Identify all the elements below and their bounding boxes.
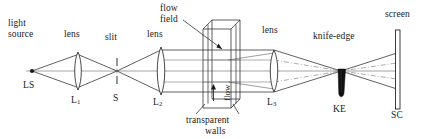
lens-2-symbol: L2 <box>153 97 162 110</box>
ray-slit-l2-lower <box>117 71 161 92</box>
knife-edge-body <box>338 69 346 97</box>
ray-ke-screen-mid-upper <box>341 63 397 71</box>
light-source-point <box>30 69 34 73</box>
schlieren-system-diagram: light source lens slit lens flow field l… <box>0 0 430 139</box>
lens-3-symbol: L3 <box>267 97 276 110</box>
test-section-edge-br <box>231 99 240 108</box>
ray-ke-screen-lower <box>341 71 397 89</box>
ray-ke-screen-upper <box>341 53 397 71</box>
ray-ls-l1-lower <box>32 71 78 88</box>
test-section-edge-tl <box>203 20 212 29</box>
light-source-label: light source <box>8 18 33 40</box>
knife-edge-symbol: KE <box>333 104 346 115</box>
lens-3-label: lens <box>262 25 278 36</box>
flow-arrow-label: flow <box>222 85 232 102</box>
transparent-walls-leaders <box>196 104 239 114</box>
lens-1-symbol: L1 <box>71 95 80 108</box>
flow-field-label-line1: flow <box>160 3 178 13</box>
ray-l3-ke-mid-lower <box>274 71 341 82</box>
transparent-walls-label-line2: walls <box>205 126 226 137</box>
ray-l3-ke-lower <box>274 71 341 92</box>
ray-ls-l1-upper <box>32 55 78 72</box>
knife-edge-label: knife-edge <box>313 31 355 42</box>
light-source-label-line2: source <box>8 29 33 39</box>
slit-label: slit <box>105 32 117 43</box>
lens-2-label: lens <box>147 29 163 40</box>
light-source-symbol: LS <box>23 80 34 91</box>
ray-l3-ke-mid-upper <box>274 60 341 71</box>
ray-ke-screen-mid-lower <box>341 71 397 79</box>
flow-field-leader <box>183 20 222 49</box>
flow-field-label: flow field <box>160 3 178 25</box>
transparent-walls-label-line1: transparent <box>186 115 229 126</box>
lens-1-body <box>75 52 82 90</box>
ray-l3-ke-upper <box>274 50 341 71</box>
knife-edge-focus-point <box>340 70 342 72</box>
lens-3-body <box>270 50 278 92</box>
lens-2-body <box>157 47 165 95</box>
slit-symbol: S <box>113 93 118 104</box>
ray-slit-l2-upper <box>117 50 161 71</box>
flow-field-label-line2: field <box>160 14 178 24</box>
light-source-label-line1: light <box>8 18 26 28</box>
screen-label: screen <box>385 9 410 20</box>
ray-l1-slit-lower <box>78 71 117 88</box>
deflected-ray-b <box>228 82 274 89</box>
test-section-edge-tr <box>231 20 240 29</box>
ray-l1-slit-upper <box>78 55 117 72</box>
lens-1-label: lens <box>64 29 80 40</box>
deflected-ray-a <box>228 53 274 60</box>
screen-symbol: SC <box>391 110 403 121</box>
screen-body <box>396 30 401 109</box>
